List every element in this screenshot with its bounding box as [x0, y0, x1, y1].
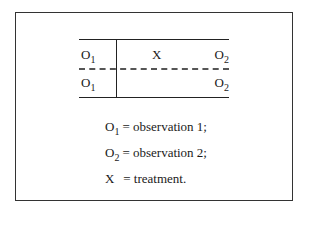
row2-pretest: O1: [81, 76, 95, 89]
dashed-row-separator: [79, 68, 229, 70]
row2-posttest: O2: [215, 76, 229, 89]
row1-posttest: O2: [215, 48, 229, 61]
bottom-rule: [79, 97, 229, 98]
legend-treatment: X = treatment.: [105, 172, 186, 185]
top-rule: [79, 39, 229, 40]
design-table: O1 X O2 O1 O2: [79, 39, 229, 98]
legend-observation-1: O1= observation 1;: [105, 120, 207, 133]
row1-treatment: X: [152, 48, 161, 61]
vertical-divider: [116, 39, 117, 98]
row1-pretest: O1: [81, 48, 95, 61]
legend-observation-2: O2= observation 2;: [105, 146, 207, 159]
